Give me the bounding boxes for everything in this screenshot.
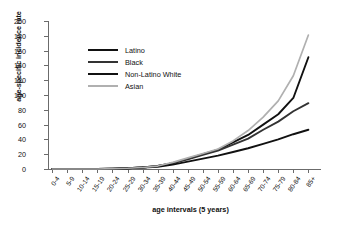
x-tick-label: 35-39 bbox=[151, 175, 166, 193]
legend-item-label: Black bbox=[125, 58, 143, 67]
legend-item[interactable]: Latino bbox=[88, 44, 218, 56]
x-tick-mark bbox=[233, 169, 234, 173]
x-tick-label: 60-64 bbox=[226, 175, 241, 193]
chart-legend: LatinoBlackNon-Latino WhiteAsian bbox=[88, 44, 218, 92]
legend-line-swatch-icon bbox=[88, 85, 118, 87]
series-line bbox=[52, 103, 308, 169]
incidence-rate-line-chart: age-specific incidence rate 020406080100… bbox=[0, 0, 339, 230]
legend-item-label: Latino bbox=[125, 46, 145, 55]
x-tick-label: 30-34 bbox=[136, 175, 151, 193]
y-tick-label: 140 bbox=[0, 61, 26, 70]
y-tick-label: 20 bbox=[0, 150, 26, 159]
legend-item[interactable]: Non-Latino White bbox=[88, 68, 218, 80]
y-tick-label: 100 bbox=[0, 91, 26, 100]
x-tick-label: 45-49 bbox=[181, 175, 196, 193]
x-tick-mark bbox=[248, 169, 249, 173]
y-tick-mark bbox=[44, 169, 48, 170]
x-tick-label: 20-24 bbox=[106, 175, 121, 193]
x-tick-label: 40-44 bbox=[166, 175, 181, 193]
y-tick-label: 40 bbox=[0, 135, 26, 144]
legend-item-label: Non-Latino White bbox=[125, 70, 181, 79]
y-tick-label: 180 bbox=[0, 32, 26, 41]
y-tick-label: 80 bbox=[0, 106, 26, 115]
x-tick-label: 0-4 bbox=[50, 175, 61, 187]
legend-item[interactable]: Black bbox=[88, 56, 218, 68]
x-tick-mark bbox=[293, 169, 294, 173]
legend-line-swatch-icon bbox=[88, 61, 118, 63]
series-line bbox=[52, 130, 308, 169]
x-tick-label: 25-29 bbox=[121, 175, 136, 193]
x-tick-mark bbox=[112, 169, 113, 173]
x-tick-mark bbox=[188, 169, 189, 173]
x-tick-label: 85+ bbox=[305, 175, 317, 188]
x-tick-label: 15-19 bbox=[91, 175, 106, 193]
x-tick-mark bbox=[218, 169, 219, 173]
x-tick-label: 50-54 bbox=[196, 175, 211, 193]
x-tick-mark bbox=[263, 169, 264, 173]
x-tick-mark bbox=[308, 169, 309, 173]
y-tick-label: 0 bbox=[0, 165, 26, 174]
x-axis-title: age intervals (5 years) bbox=[0, 205, 339, 214]
x-tick-mark bbox=[143, 169, 144, 173]
x-tick-label: 70-74 bbox=[257, 175, 272, 193]
x-tick-mark bbox=[203, 169, 204, 173]
y-tick-label: 160 bbox=[0, 47, 26, 56]
x-tick-label: 65-69 bbox=[241, 175, 256, 193]
x-tick-label: 75-79 bbox=[272, 175, 287, 193]
legend-line-swatch-icon bbox=[88, 49, 118, 51]
y-tick-label: 200 bbox=[0, 17, 26, 26]
x-tick-label: 80-84 bbox=[287, 175, 302, 193]
x-tick-mark bbox=[128, 169, 129, 173]
legend-line-swatch-icon bbox=[88, 73, 118, 75]
y-tick-label: 60 bbox=[0, 121, 26, 130]
legend-item-label: Asian bbox=[125, 82, 143, 91]
y-tick-label: 120 bbox=[0, 76, 26, 85]
x-tick-mark bbox=[158, 169, 159, 173]
x-tick-mark bbox=[278, 169, 279, 173]
x-tick-label: 10-14 bbox=[76, 175, 91, 193]
legend-item[interactable]: Asian bbox=[88, 80, 218, 92]
x-tick-label: 55-59 bbox=[211, 175, 226, 193]
x-tick-mark bbox=[173, 169, 174, 173]
x-tick-label: 5-9 bbox=[65, 175, 76, 187]
